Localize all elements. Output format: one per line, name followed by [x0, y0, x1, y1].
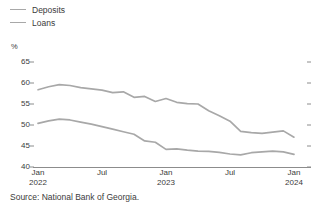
- x-tick-year: 2022: [29, 178, 47, 188]
- series-line-loans: [38, 119, 294, 155]
- chart-figure: Deposits Loans % 404550556065 Jan2022Jul…: [0, 0, 320, 215]
- x-tick-month: Jan: [288, 168, 301, 177]
- x-tick-month: Jan: [32, 168, 45, 177]
- y-axis-ticks-left: [30, 62, 34, 167]
- x-axis-tick-labels: Jan2022JulJan2023JulJan2024: [0, 168, 320, 194]
- x-axis-tick-label: Jul: [97, 168, 107, 178]
- y-axis-ticks-right: [307, 62, 311, 167]
- x-axis-tick-label: Jul: [225, 168, 235, 178]
- x-tick-year: 2024: [285, 178, 303, 188]
- x-tick-month: Jul: [97, 168, 107, 177]
- x-tick-month: Jan: [160, 168, 173, 177]
- series-line-deposits: [38, 85, 294, 137]
- source-note: Source: National Bank of Georgia.: [10, 192, 139, 202]
- x-tick-year: 2023: [157, 178, 175, 188]
- x-axis-tick-label: Jan2023: [157, 168, 175, 188]
- x-axis-tick-label: Jan2024: [285, 168, 303, 188]
- x-tick-month: Jul: [225, 168, 235, 177]
- series-lines: [38, 85, 294, 155]
- x-axis-tick-label: Jan2022: [29, 168, 47, 188]
